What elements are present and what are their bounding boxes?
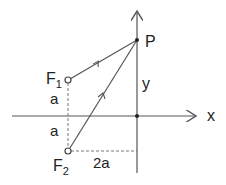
- origin-dot: [135, 114, 139, 118]
- label-p: P: [145, 33, 156, 50]
- label-2a: 2a: [93, 154, 110, 171]
- label-f1: F1: [46, 70, 62, 90]
- point-f2: [65, 148, 71, 154]
- label-lower-a: a: [50, 122, 59, 139]
- point-f1: [65, 77, 71, 83]
- label-f2: F2: [53, 157, 69, 177]
- diagram-canvas: P F1 F2 y x a a 2a: [0, 0, 226, 185]
- label-y: y: [142, 75, 150, 92]
- label-upper-a: a: [50, 90, 59, 107]
- label-x: x: [207, 107, 215, 124]
- point-p: [135, 38, 139, 42]
- ray-f1-to-p: [70, 40, 137, 79]
